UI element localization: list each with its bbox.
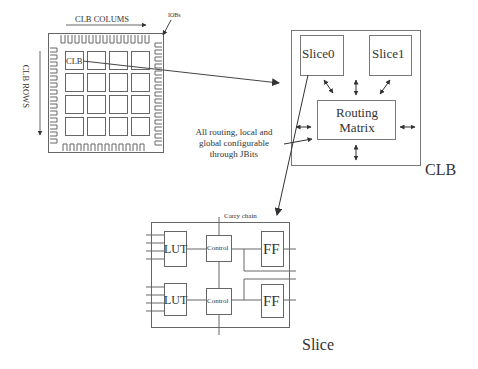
clb-rows-label: CLB ROWS [21, 65, 30, 108]
iob-column-right [155, 43, 162, 145]
control-top-label: Control [207, 245, 228, 252]
slice0-label: Slice0 [302, 47, 335, 60]
routing-matrix-line1: Routing [318, 105, 396, 120]
routing-annotation: All routing, local and global configurab… [184, 127, 284, 160]
iobs-label: IOBs [168, 12, 181, 18]
slice1-label: Slice1 [372, 47, 405, 60]
fpga-die [40, 20, 171, 153]
iob-row-bottom [63, 144, 144, 151]
annotation-line2: global configurable [184, 138, 284, 149]
routing-matrix-label: Routing Matrix [318, 105, 396, 135]
ff-top-label: FF [263, 242, 280, 257]
iob-column-left [50, 48, 57, 143]
iob-row-top [61, 35, 149, 43]
clb-cell-label: CLB [66, 57, 83, 66]
control-bottom-label: Control [207, 298, 228, 305]
annotation-pointer [284, 139, 312, 144]
clb-title: CLB [425, 162, 456, 178]
iobs-pointer [163, 20, 171, 35]
clb-zoom-arrow [83, 61, 279, 83]
carry-chain-label: Carry chain [224, 213, 257, 220]
clb-columns-label: CLB COLUMS [75, 15, 129, 24]
annotation-line1: All routing, local and [184, 127, 284, 138]
ff-bottom-label: FF [263, 294, 280, 309]
lut-bottom-label: LUT [164, 294, 187, 306]
slice-title: Slice [302, 337, 334, 353]
routing-matrix-line2: Matrix [318, 120, 396, 135]
annotation-line3: through JBits [184, 149, 284, 160]
lut-top-label: LUT [164, 243, 187, 255]
slice-detail [146, 217, 296, 335]
